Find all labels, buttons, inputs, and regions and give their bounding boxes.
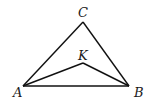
vertex-label-b: B [133,85,144,100]
vertex-label-k: K [77,48,89,63]
segments [23,22,129,86]
triangle-diagram: C K A B [0,0,149,102]
vertex-label-c: C [78,5,88,20]
segment-bk [83,63,129,86]
segment-ak [23,63,83,86]
vertex-label-a: A [12,85,22,100]
segment-bc [83,22,129,86]
segment-ac [23,22,83,86]
